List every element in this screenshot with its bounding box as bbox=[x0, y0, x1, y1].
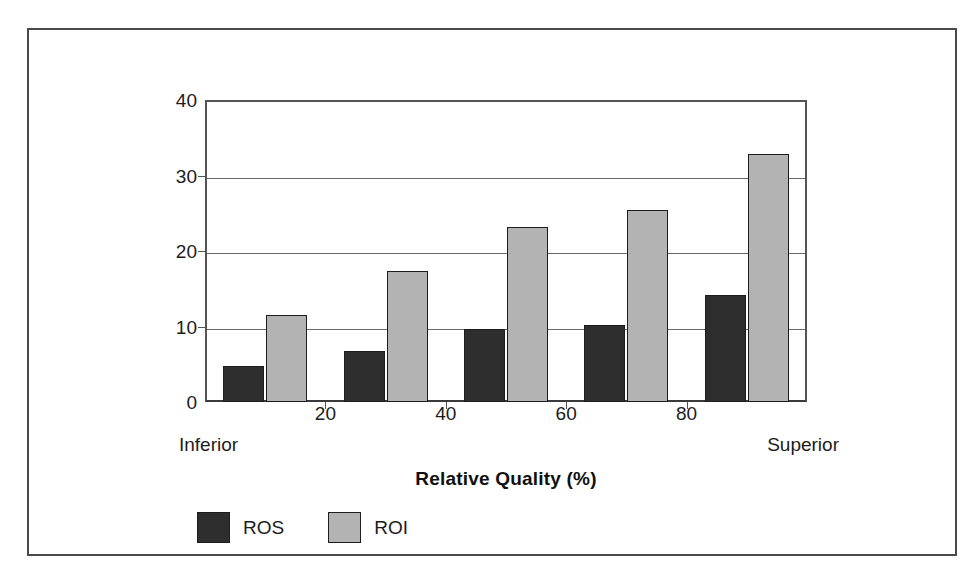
chart-legend: ROSROI bbox=[197, 512, 408, 543]
annotation-superior: Superior bbox=[767, 434, 839, 456]
bar-roi-70 bbox=[627, 210, 668, 402]
y-tick-label-40: 40 bbox=[151, 91, 197, 110]
x-tick-label-60: 60 bbox=[556, 404, 577, 423]
y-tick-mark-30 bbox=[198, 176, 205, 177]
y-axis-labels: 010203040 bbox=[147, 100, 197, 402]
bar-ros-10 bbox=[223, 366, 264, 402]
x-tick-label-80: 80 bbox=[676, 404, 697, 423]
legend-label-roi: ROI bbox=[374, 518, 408, 537]
y-tick-mark-10 bbox=[198, 327, 205, 328]
y-tick-mark-20 bbox=[198, 251, 205, 252]
bar-roi-10 bbox=[266, 315, 307, 402]
endpoint-labels: Inferior Superior bbox=[179, 434, 839, 460]
y-tick-label-10: 10 bbox=[151, 317, 197, 336]
bar-ros-30 bbox=[344, 351, 385, 402]
figure-page: 010203040 20406080 Inferior Superior Rel… bbox=[0, 0, 980, 582]
legend-swatch-roi bbox=[328, 512, 361, 543]
legend-label-ros: ROS bbox=[243, 518, 284, 537]
bar-roi-50 bbox=[507, 227, 548, 402]
bar-ros-90 bbox=[705, 295, 746, 402]
x-axis-title: Relative Quality (%) bbox=[205, 468, 807, 490]
y-tick-label-0: 0 bbox=[151, 393, 197, 412]
y-tick-label-20: 20 bbox=[151, 242, 197, 261]
figure-frame: 010203040 20406080 Inferior Superior Rel… bbox=[27, 28, 957, 556]
x-axis-labels: 20406080 bbox=[205, 404, 807, 432]
x-tick-label-20: 20 bbox=[315, 404, 336, 423]
y-tick-label-30: 30 bbox=[151, 166, 197, 185]
bar-ros-50 bbox=[464, 329, 505, 402]
bar-roi-30 bbox=[387, 271, 428, 402]
legend-swatch-ros bbox=[197, 512, 230, 543]
bar-roi-90 bbox=[748, 154, 789, 402]
bars-layer bbox=[205, 100, 807, 402]
legend-entry-roi: ROI bbox=[328, 512, 408, 543]
bar-ros-70 bbox=[584, 325, 625, 402]
x-tick-label-40: 40 bbox=[435, 404, 456, 423]
annotation-inferior: Inferior bbox=[179, 434, 238, 456]
legend-entry-ros: ROS bbox=[197, 512, 284, 543]
